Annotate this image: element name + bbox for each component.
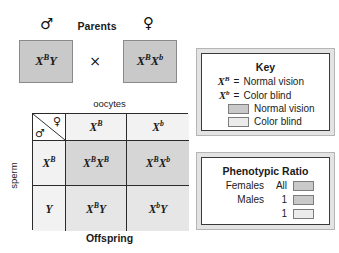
oocytes-axis-label: oocytes (32, 98, 187, 109)
key-equals-0: = (234, 76, 240, 87)
ratio-swatch-1 (293, 195, 314, 205)
punnett-cell-1-0: XBY (66, 186, 127, 231)
ratio-count-1: 1 (269, 194, 293, 205)
punnett-square-section: oocytes sperm ♀ ♂ XB Xb XB XBXB XBXb (0, 96, 195, 253)
ratio-sex-label-0: Females (202, 180, 269, 191)
parent-male-genotype-box: XBY (19, 40, 73, 83)
punnett-cell-0-1: XBXb (127, 141, 189, 186)
ratio-row-males-colorblind: 1 (202, 208, 329, 219)
key-panel: Key XB = Normal vision Xb = Color blind … (196, 48, 335, 136)
corner-male-symbol-icon: ♂ (35, 127, 45, 140)
phenotypic-ratio-panel-inner: Phenotypic Ratio Females All Males 1 1 (201, 157, 330, 225)
ratio-sex-label-1: Males (202, 194, 269, 205)
key-swatch-label-1: Color blind (254, 116, 302, 127)
ratio-swatch-0 (293, 181, 314, 191)
punnett-cell-0-0: XBXB (66, 141, 127, 186)
punnett-row-header-1: Y (33, 186, 66, 231)
parent-female-genotype-box: XBXb (123, 40, 177, 83)
male-sex-symbol-icon: ♂ (40, 17, 53, 32)
key-swatch-label-0: Normal vision (254, 103, 315, 114)
punnett-col-header-0: XB (66, 114, 127, 141)
cross-symbol-icon: × (85, 53, 105, 69)
female-sex-symbol-icon: ♀ (143, 16, 154, 31)
key-allele-text-1: Color blind (243, 90, 327, 101)
key-allele-line-1: Xb = Color blind (202, 90, 329, 101)
punnett-corner-cell: ♀ ♂ (33, 114, 66, 141)
ratio-swatch-2 (293, 209, 314, 219)
parents-section: ♂ Parents ♀ XBY × XBXb (0, 0, 195, 96)
punnett-cell-1-1: XbY (127, 186, 189, 231)
punnett-row-header-0: XB (33, 141, 66, 186)
parent-male-genotype-text: XBY (35, 54, 57, 69)
key-swatch-color-blind (228, 117, 249, 127)
punnett-grid: ♀ ♂ XB Xb XB XBXB XBXb Y XBY XbY (32, 113, 188, 230)
parent-female-genotype-text: XBXb (137, 54, 164, 69)
key-swatch-line-0: Normal vision (202, 103, 329, 114)
sperm-axis-label: sperm (8, 154, 19, 198)
key-allele-text-0: Normal vision (243, 76, 327, 87)
ratio-row-males: Males 1 (202, 194, 329, 205)
phenotypic-ratio-panel: Phenotypic Ratio Females All Males 1 1 (196, 152, 335, 230)
ratio-row-females: Females All (202, 180, 329, 191)
ratio-count-2: 1 (269, 208, 293, 219)
key-swatch-normal-vision (228, 104, 249, 114)
phenotypic-ratio-title: Phenotypic Ratio (202, 165, 329, 177)
key-panel-title: Key (202, 61, 329, 73)
offspring-label: Offspring (32, 232, 187, 244)
key-panel-inner: Key XB = Normal vision Xb = Color blind … (201, 53, 330, 131)
key-allele-line-0: XB = Normal vision (202, 76, 329, 87)
punnett-col-header-1: Xb (127, 114, 189, 141)
key-swatch-line-1: Color blind (202, 116, 329, 127)
corner-female-symbol-icon: ♀ (53, 115, 61, 128)
ratio-count-0: All (269, 180, 293, 191)
key-equals-1: = (234, 90, 240, 101)
parents-title: Parents (62, 20, 132, 32)
